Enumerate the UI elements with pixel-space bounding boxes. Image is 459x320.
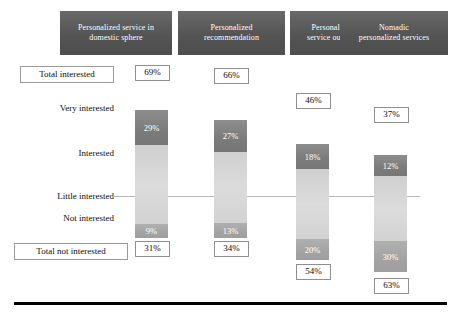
bar-3-segment-not-interested: 20% (296, 239, 329, 260)
total-interested-value-2: 66% (214, 68, 249, 84)
total-not-interested-value-2: 34% (214, 241, 249, 257)
bar-2-segment-middle (214, 152, 247, 223)
category-header-2: Personalized recommendation (178, 11, 285, 55)
stacked-bar-4: 12% 30% (374, 155, 407, 272)
category-header-2-line1: Personalized (204, 23, 259, 33)
category-header-1-line2: domestic sphere (78, 33, 154, 43)
bar-2-segment-very-interested: 27% (214, 120, 247, 152)
category-header-4-line2: personalized services (359, 33, 429, 43)
row-label-total-not-interested: Total not interested (14, 243, 128, 260)
category-header-2-line2: recommendation (204, 33, 259, 43)
category-header-4-line1: Nomadic (359, 23, 429, 33)
total-not-interested-value-4: 63% (374, 278, 409, 294)
row-label-very-interested: Very interested (14, 103, 114, 114)
bar-4-segment-middle (374, 176, 407, 241)
total-interested-value-1: 69% (135, 65, 170, 81)
bar-4-segment-very-interested: 12% (374, 155, 407, 176)
row-label-total-interested: Total interested (20, 66, 114, 83)
row-label-interested: Interested (14, 148, 114, 159)
row-label-little-interested: Little interested (14, 191, 114, 202)
total-interested-value-4: 37% (374, 107, 409, 123)
bar-3-segment-very-interested: 18% (296, 144, 329, 169)
bar-2-segment-not-interested: 13% (214, 223, 247, 238)
stacked-bar-2: 27% 13% (214, 120, 247, 238)
category-header-1: Personalized service in domestic sphere (60, 11, 172, 55)
bar-4-segment-not-interested: 30% (374, 241, 407, 272)
bar-1-segment-middle (135, 145, 168, 224)
row-label-not-interested: Not interested (14, 213, 114, 224)
category-header-1-line1: Personalized service in (78, 23, 154, 33)
category-header-4: Nomadic personalized services (340, 11, 448, 55)
total-not-interested-value-3: 54% (296, 264, 331, 280)
bar-3-segment-middle (296, 169, 329, 239)
total-interested-value-3: 46% (296, 93, 331, 109)
bar-1-segment-not-interested: 9% (135, 224, 168, 238)
bar-1-segment-very-interested: 29% (135, 110, 168, 145)
bottom-divider-rule (14, 302, 447, 305)
chart-canvas: Personalized service in domestic sphere … (0, 0, 459, 320)
total-not-interested-value-1: 31% (135, 241, 170, 257)
stacked-bar-1: 29% 9% (135, 110, 168, 238)
stacked-bar-3: 18% 20% (296, 144, 329, 260)
